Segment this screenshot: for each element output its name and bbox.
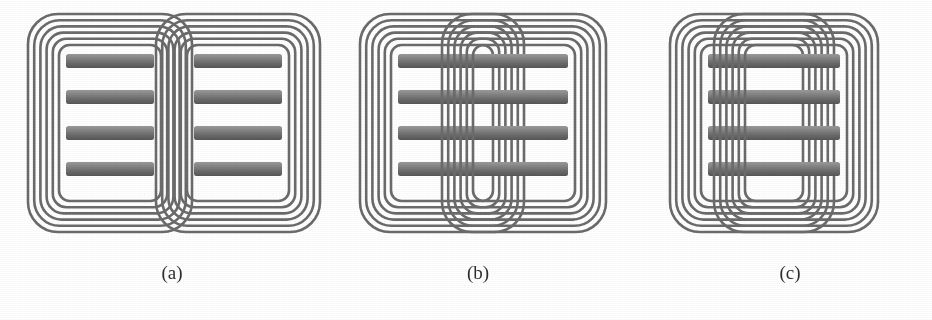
panel-a-caption: (a) [112, 262, 232, 284]
panel-b-caption: (b) [418, 262, 538, 284]
panel-a-coil-right [156, 14, 320, 232]
panel-c-caption: (c) [730, 262, 850, 284]
panel-a-drawing [26, 0, 326, 250]
panel-c-drawing [668, 0, 898, 250]
panel-b [358, 0, 610, 250]
figure-canvas: (a) (b) (c) [0, 0, 932, 320]
panel-b-drawing [358, 0, 610, 250]
panel-a [26, 0, 326, 250]
panel-c [668, 0, 898, 250]
